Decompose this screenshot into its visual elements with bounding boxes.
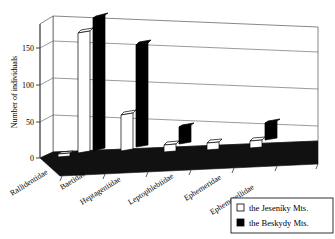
y-tick-label-150: 150 <box>22 44 34 53</box>
x-tick-1 <box>103 174 105 179</box>
x-tick-6 <box>316 164 318 169</box>
chart-canvas: 150 100 50 0 Number of individuals <box>0 0 335 239</box>
legend-label-jeseniky: the Jeseníky Mts. <box>249 203 308 213</box>
legend-swatch-beskydy <box>237 219 244 226</box>
bar-beskydy-baetidae <box>93 15 105 151</box>
legend-swatch-jeseniky <box>237 204 244 211</box>
bar-jeseniky-baetidae <box>78 31 90 153</box>
y-tick-label-0: 0 <box>30 154 34 163</box>
x-tick-4 <box>232 168 234 173</box>
legend-label-beskydy: the Beskydy Mts. <box>249 218 309 228</box>
bar-chart: 150 100 50 0 Number of individuals <box>0 0 335 239</box>
bar-jeseniky-ephemeridae <box>207 142 219 150</box>
bar-beskydy-leptophlebiidae <box>179 125 191 144</box>
bar-group-baetidae <box>78 13 108 153</box>
x-label-leptophlebiidae: Leptophlebiidae <box>126 171 175 206</box>
y-axis <box>36 24 40 158</box>
y-axis-title: Number of individuals <box>10 56 19 128</box>
x-tick-0 <box>60 176 62 181</box>
left-wall <box>40 16 53 158</box>
x-label-rallidentidae: Rallidentidae <box>8 167 49 197</box>
legend: the Jeseníky Mts. the Beskydy Mts. <box>231 198 333 233</box>
bar-beskydy-ephemerellidae <box>265 121 277 140</box>
x-tick-2 <box>146 172 148 177</box>
y-tick-label-50: 50 <box>26 118 34 127</box>
bar-jeseniky-leptophlebiidae <box>164 144 176 152</box>
bar-beskydy-heptageniidae <box>136 43 148 147</box>
x-label-ephemeridae: Ephemeridae <box>182 172 223 202</box>
bar-jeseniky-ephemerellidae <box>250 140 262 148</box>
x-tick-3 <box>189 170 191 175</box>
x-tick-5 <box>275 166 277 171</box>
bar-jeseniky-heptageniidae <box>121 113 133 151</box>
bar-jeseniky-rallidentidae <box>58 153 70 157</box>
y-tick-label-100: 100 <box>22 81 34 90</box>
x-label-heptageniidae: Heptageniidae <box>78 174 122 206</box>
